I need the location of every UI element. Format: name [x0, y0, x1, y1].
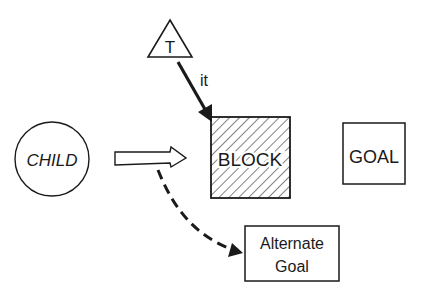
teacher-to-block-edge: it: [178, 62, 212, 122]
teacher-node: T: [148, 20, 192, 57]
arrowhead-icon: [228, 243, 243, 257]
goal-label: GOAL: [349, 147, 399, 167]
alternate-goal-node: Alternate Goal: [245, 226, 339, 281]
alternate-goal-label-line2: Goal: [275, 258, 309, 275]
edge-label-it: it: [200, 72, 209, 89]
block-node: BLOCK: [211, 117, 290, 198]
goal-node: GOAL: [343, 123, 405, 184]
hollow-arrow: [115, 147, 186, 167]
child-node: CHILD: [15, 122, 89, 196]
alternate-goal-label-line1: Alternate: [260, 235, 324, 252]
child-to-block-edge: [115, 147, 186, 167]
child-label: CHILD: [26, 151, 77, 170]
diagram-canvas: T it CHILD BLOCK GOAL Alternate Goal: [0, 0, 431, 295]
teacher-label: T: [165, 38, 175, 57]
block-label: BLOCK: [218, 149, 283, 170]
